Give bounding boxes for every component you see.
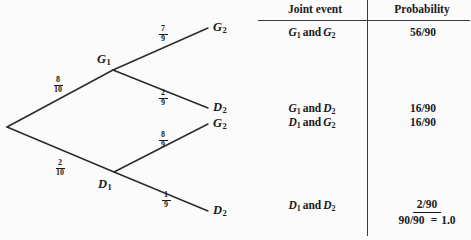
branch-probability-G1-G2: 7 9 bbox=[155, 25, 171, 43]
sum-value: 1.0 bbox=[441, 214, 455, 226]
column-header-joint-event: Joint event bbox=[270, 3, 360, 15]
node-label-G2-upper: G2 bbox=[213, 20, 227, 35]
branch-probability-G1-D2: 2 9 bbox=[155, 89, 171, 107]
branch-probability-root-D1: 2 10 bbox=[52, 159, 68, 177]
table-column-divider bbox=[367, 0, 368, 236]
probability-tree-figure: G1 D1 G2 D2 G2 D2 8 10 2 10 7 9 2 9 8 9 … bbox=[0, 0, 471, 240]
table-cell-probability: 16/90 bbox=[377, 102, 469, 114]
joint-probability-table: Joint event Probability G1andG2 56/90 G1… bbox=[240, 0, 471, 240]
node-label-G1: G1 bbox=[97, 52, 111, 67]
node-label-D2-lower: D2 bbox=[213, 203, 227, 218]
column-header-probability: Probability bbox=[377, 3, 467, 15]
probability-sum: 2/90 90/90=1.0 bbox=[377, 198, 471, 227]
equals-sign: = bbox=[425, 214, 442, 226]
branch-probability-root-G1: 8 10 bbox=[50, 76, 66, 94]
table-row: D1andG2 bbox=[260, 116, 364, 128]
node-label-D2-upper: D2 bbox=[213, 100, 227, 115]
sum-total: 90/90 bbox=[398, 214, 424, 226]
sum-last-term: 2/90 bbox=[413, 198, 441, 213]
branch-probability-D1-G2: 8 9 bbox=[155, 131, 171, 149]
table-cell-probability: 56/90 bbox=[377, 26, 469, 38]
table-row: D1andD2 bbox=[260, 199, 364, 211]
node-label-D1: D1 bbox=[98, 177, 112, 192]
node-label-G2-lower: G2 bbox=[213, 116, 227, 131]
branch-probability-D1-D2: 1 9 bbox=[158, 191, 174, 209]
table-row: G1andD2 bbox=[260, 102, 364, 114]
sum-total-line: 90/90=1.0 bbox=[377, 214, 471, 227]
table-cell-probability: 16/90 bbox=[377, 116, 469, 128]
table-row: G1andG2 bbox=[260, 26, 364, 38]
table-header-rule bbox=[258, 20, 470, 21]
